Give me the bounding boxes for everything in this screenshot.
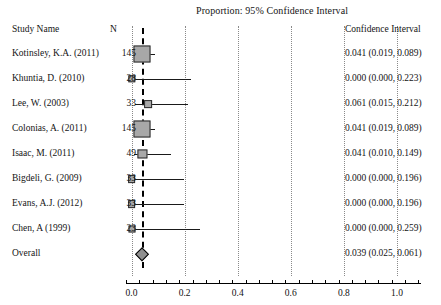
gridline-0.2 — [185, 26, 186, 276]
study-n-value: 33 — [108, 99, 136, 109]
study-n-value: 33 — [108, 199, 136, 209]
ci-whisker — [132, 79, 191, 80]
overall-ci-value: 0.039 (0.025, 0.061) — [345, 249, 422, 259]
x-axis-tick-minor — [219, 280, 220, 283]
x-axis-tick-minor — [352, 280, 353, 283]
x-axis-tick-minor — [232, 280, 233, 283]
forest-plot-figure: Proportion: 95% Confidence Interval 0.00… — [0, 0, 441, 305]
overall-effect-diamond — [135, 247, 149, 261]
x-axis-tick-minor — [259, 280, 260, 283]
study-n-value: 33 — [108, 174, 136, 184]
x-axis-tick-minor — [378, 280, 379, 283]
gridline-0.4 — [238, 26, 239, 276]
study-name-label: Bigdeli, G. (2009) — [12, 174, 82, 184]
effect-size-box — [134, 46, 151, 63]
study-name-label: Kotinsley, K.A. (2011) — [12, 49, 99, 59]
x-axis-tick-label: 0.4 — [232, 288, 244, 298]
x-axis-tick-minor — [405, 280, 406, 283]
ci-whisker — [132, 204, 184, 205]
study-name-label: Isaac, M. (2011) — [12, 149, 74, 159]
study-n-value: 23 — [108, 224, 136, 234]
x-axis-tick-minor — [166, 280, 167, 283]
study-ci-value: 0.061 (0.015, 0.212) — [345, 99, 422, 109]
x-axis-tick-minor — [246, 280, 247, 283]
study-n-value: 145 — [108, 49, 136, 59]
x-axis-tick-minor — [392, 280, 393, 283]
study-ci-value: 0.041 (0.019, 0.089) — [345, 124, 422, 134]
study-name-label: Colonias, A. (2011) — [12, 124, 87, 134]
study-n-value: 28 — [108, 74, 136, 84]
study-ci-value: 0.041 (0.010, 0.149) — [345, 149, 422, 159]
x-axis-tick-label: 0.0 — [126, 288, 138, 298]
x-axis-tick-minor — [285, 280, 286, 283]
effect-size-box — [144, 100, 152, 108]
x-axis-tick-minor — [325, 280, 326, 283]
x-axis-tick-minor — [126, 280, 127, 283]
effect-size-box — [134, 121, 151, 138]
x-axis-tick-label: 1.0 — [391, 288, 403, 298]
x-axis-tick-minor — [418, 280, 419, 283]
ci-whisker — [132, 179, 184, 180]
x-axis-tick-label: 0.6 — [285, 288, 297, 298]
study-name-label: Evans, A.J. (2012) — [12, 199, 82, 209]
x-axis-tick-minor — [365, 280, 366, 283]
study-name-label: Chen, A (1999) — [12, 224, 70, 234]
x-axis-line — [126, 283, 421, 284]
column-header-n: N — [110, 25, 117, 35]
x-axis-tick-minor — [139, 280, 140, 283]
x-axis-tick-minor — [312, 280, 313, 283]
study-ci-value: 0.000 (0.000, 0.196) — [345, 174, 422, 184]
x-axis-tick-label: 0.2 — [179, 288, 191, 298]
effect-size-box — [138, 149, 147, 158]
x-axis-tick-minor — [179, 280, 180, 283]
x-axis-tick-minor — [299, 280, 300, 283]
x-axis-tick-minor — [339, 280, 340, 283]
summary-reference-line — [142, 28, 144, 268]
x-axis-tick-minor — [193, 280, 194, 283]
overall-label: Overall — [12, 249, 41, 259]
study-name-label: Lee, W. (2003) — [12, 99, 69, 109]
gridline-0.6 — [291, 26, 292, 276]
study-n-value: 49 — [108, 149, 136, 159]
study-ci-value: 0.000 (0.000, 0.259) — [345, 224, 422, 234]
study-ci-value: 0.041 (0.019, 0.089) — [345, 49, 422, 59]
x-axis-tick-label: 0.8 — [338, 288, 350, 298]
ci-whisker — [132, 229, 201, 230]
study-name-label: Khuntia, D. (2010) — [12, 74, 84, 84]
x-axis-tick-minor — [153, 280, 154, 283]
study-ci-value: 0.000 (0.000, 0.223) — [345, 74, 422, 84]
study-n-value: 145 — [108, 124, 136, 134]
column-header-confidence-interval: Confidence Interval — [345, 25, 421, 35]
x-axis-tick-minor — [206, 280, 207, 283]
study-ci-value: 0.000 (0.000, 0.196) — [345, 199, 422, 209]
column-header-study-name: Study Name — [12, 25, 59, 35]
x-axis-tick-minor — [272, 280, 273, 283]
